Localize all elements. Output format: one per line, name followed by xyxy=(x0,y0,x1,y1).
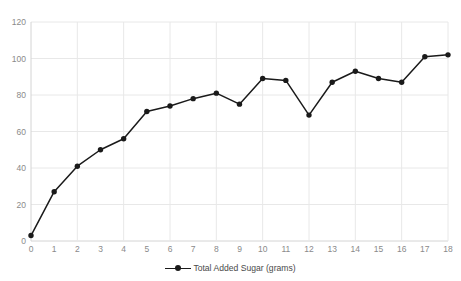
x-axis-tick-label: 5 xyxy=(144,245,149,254)
y-axis: 020406080100120 xyxy=(0,0,26,281)
y-axis-tick-label: 60 xyxy=(17,128,26,137)
legend-marker-icon xyxy=(165,263,191,273)
data-point[interactable] xyxy=(190,96,195,101)
data-point[interactable] xyxy=(237,101,242,106)
plot-area xyxy=(31,22,448,241)
line-chart: 020406080100120 012345678910111213141516… xyxy=(0,0,461,281)
legend-entry[interactable]: Total Added Sugar (grams) xyxy=(165,263,295,273)
data-point[interactable] xyxy=(399,80,404,85)
x-axis-tick-label: 2 xyxy=(75,245,80,254)
x-axis-tick-label: 12 xyxy=(304,245,313,254)
data-point[interactable] xyxy=(329,80,334,85)
data-point[interactable] xyxy=(167,103,172,108)
data-point[interactable] xyxy=(75,163,80,168)
x-axis-tick-label: 1 xyxy=(52,245,57,254)
data-point[interactable] xyxy=(51,189,56,194)
y-axis-tick-label: 80 xyxy=(17,91,26,100)
data-point[interactable] xyxy=(214,90,219,95)
data-series-layer xyxy=(31,22,448,241)
x-axis-tick-label: 17 xyxy=(420,245,429,254)
y-axis-tick-label: 20 xyxy=(17,201,26,210)
data-point[interactable] xyxy=(28,233,33,238)
data-point[interactable] xyxy=(422,54,427,59)
data-point[interactable] xyxy=(98,147,103,152)
x-axis-tick-label: 15 xyxy=(374,245,383,254)
x-axis-tick-label: 4 xyxy=(121,245,126,254)
data-point[interactable] xyxy=(144,109,149,114)
y-axis-tick-label: 0 xyxy=(21,237,26,246)
data-point[interactable] xyxy=(445,52,450,57)
legend-label: Total Added Sugar (grams) xyxy=(191,264,295,273)
y-axis-tick-label: 40 xyxy=(17,164,26,173)
chart-legend: Total Added Sugar (grams) xyxy=(0,263,461,273)
x-axis-tick-label: 11 xyxy=(281,245,290,254)
x-axis-tick-label: 10 xyxy=(258,245,267,254)
data-point[interactable] xyxy=(353,69,358,74)
data-point[interactable] xyxy=(283,78,288,83)
x-axis-tick-label: 9 xyxy=(237,245,242,254)
x-axis-tick-label: 16 xyxy=(397,245,406,254)
x-axis-tick-label: 6 xyxy=(168,245,173,254)
x-axis-tick-label: 14 xyxy=(351,245,360,254)
y-axis-tick-label: 120 xyxy=(12,18,26,27)
x-axis-tick-label: 8 xyxy=(214,245,219,254)
x-axis-tick-label: 0 xyxy=(29,245,34,254)
data-point[interactable] xyxy=(121,136,126,141)
x-axis-tick-label: 18 xyxy=(443,245,452,254)
x-axis: 0123456789101112131415161718 xyxy=(31,245,448,259)
data-point[interactable] xyxy=(376,76,381,81)
data-point[interactable] xyxy=(306,112,311,117)
x-axis-tick-label: 3 xyxy=(98,245,103,254)
data-point[interactable] xyxy=(260,76,265,81)
series-line xyxy=(31,55,448,236)
x-axis-tick-label: 7 xyxy=(191,245,196,254)
x-axis-tick-label: 13 xyxy=(327,245,336,254)
y-axis-tick-label: 100 xyxy=(12,55,26,64)
